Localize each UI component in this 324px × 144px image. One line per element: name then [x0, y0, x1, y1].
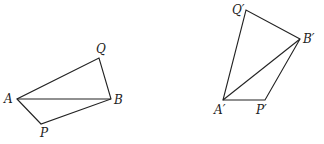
label-A: A — [4, 93, 13, 105]
label-B-prime: B′ — [303, 33, 315, 45]
left-quad-APBQ — [17, 58, 111, 124]
right-diagonal-AB — [223, 39, 300, 100]
right-quad-APBQ — [223, 10, 300, 100]
label-P: P — [40, 127, 48, 139]
label-Q-prime: Q′ — [232, 4, 245, 16]
label-A-prime: A′ — [214, 104, 225, 116]
diagram: A B P Q A′ B′ P′ Q′ — [0, 0, 324, 144]
label-Q: Q — [96, 43, 106, 55]
label-B: B — [114, 94, 123, 106]
figure-lines — [0, 0, 324, 144]
label-P-prime: P′ — [256, 104, 267, 116]
